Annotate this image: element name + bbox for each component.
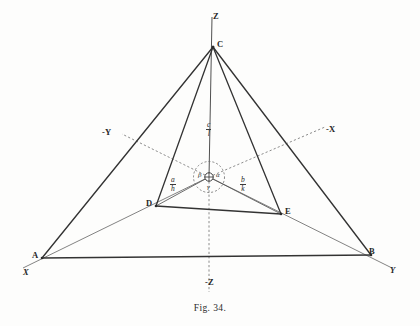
- fraction-b-over-k: b k: [240, 176, 246, 193]
- fraction-c-over-l-denominator: l: [206, 129, 211, 138]
- fraction-a-over-h-denominator: h: [170, 184, 176, 193]
- axis-label-negative-x: -X: [326, 125, 335, 134]
- vertex-label-d: D: [146, 199, 152, 208]
- angle-label-beta: β: [198, 172, 202, 179]
- vertex-dot-d: [155, 205, 158, 208]
- edge-d-e: [156, 206, 281, 214]
- vertex-label-b: B: [369, 247, 375, 256]
- fraction-c-over-l-numerator: c: [206, 121, 211, 129]
- fraction-b-over-k-numerator: b: [240, 176, 246, 184]
- vertex-label-e: E: [285, 207, 291, 216]
- axis-label-positive-y: Y: [390, 266, 395, 275]
- edge-c-b: [213, 47, 371, 255]
- axis-label-positive-z: Z: [213, 12, 219, 21]
- fraction-c-over-l: c l: [206, 121, 211, 138]
- axis-label-positive-x: X: [23, 268, 29, 277]
- vertex-label-c: C: [217, 40, 223, 49]
- edge-c-a: [42, 47, 213, 258]
- axis-ray-positive-x: [23, 177, 209, 268]
- axis-ray-positive-y: [209, 177, 392, 268]
- vertex-dot-c: [212, 46, 215, 49]
- figure-caption: Fig. 34.: [0, 303, 420, 313]
- axis-ray-positive-z: [209, 17, 212, 177]
- angle-label-alpha: α: [216, 172, 220, 179]
- edge-c-d: [156, 47, 213, 206]
- figure-container: Z -Z X -X Y -Y C A B D E β α γ c l a h b…: [0, 0, 420, 326]
- angle-label-gamma: γ: [207, 184, 210, 191]
- axis-ray-negative-x: [209, 127, 325, 177]
- edge-a-b: [42, 255, 371, 258]
- construction-line-origin-d: [156, 177, 209, 206]
- axis-label-negative-y: -Y: [102, 128, 111, 137]
- axis-ray-negative-y: [122, 134, 209, 177]
- vertex-dot-a: [41, 257, 44, 260]
- edge-c-e: [213, 47, 281, 214]
- fraction-b-over-k-denominator: k: [240, 184, 246, 193]
- vertex-label-a: A: [32, 251, 38, 260]
- fraction-a-over-h: a h: [170, 176, 176, 193]
- vertex-dot-e: [280, 213, 283, 216]
- fraction-a-over-h-numerator: a: [170, 176, 176, 184]
- axis-label-negative-z: -Z: [205, 278, 214, 287]
